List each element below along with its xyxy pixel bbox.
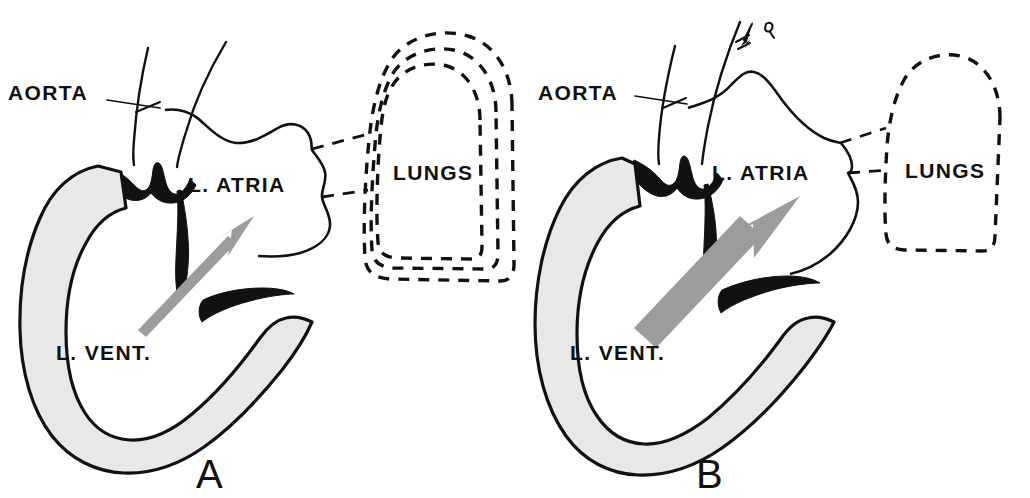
panel-b-lungs-group [885, 55, 1000, 251]
panel-a-label-aorta: AORTA [8, 81, 88, 104]
panel-b-label-ventricle: L. VENT. [570, 341, 665, 364]
lung-contour-middle [371, 49, 498, 269]
aortic-outflow-mark-dot [765, 23, 773, 32]
lung-contour-outer [364, 33, 514, 281]
panel-b-blood-flow-arrow [634, 196, 800, 348]
panel-a-label-atria: L. ATRIA [188, 173, 286, 196]
cardiac-flow-figure: AORTA L. ATRIA L. VENT. LUNGS A [0, 0, 1030, 498]
aorta-wall-left [658, 46, 675, 164]
panel-b: AORTA L. ATRIA L. VENT. LUNGS B [535, 21, 1000, 496]
panel-a: AORTA L. ATRIA L. VENT. LUNGS A [8, 33, 514, 496]
mitral-valve-posterior-leaflet [199, 288, 294, 322]
figure-canvas: AORTA L. ATRIA L. VENT. LUNGS A [0, 0, 1030, 498]
panel-a-blood-flow-arrow [138, 216, 254, 337]
pulmonary-connector-lower [322, 190, 368, 197]
aortic-outflow-mark-tail [770, 32, 774, 38]
panel-b-label-aorta: AORTA [538, 81, 618, 104]
pulmonary-connector-lower [848, 170, 888, 173]
lung-contour-outer [885, 55, 1000, 251]
panel-a-aorta-leader-line [107, 100, 160, 108]
panel-a-letter: A [196, 452, 223, 496]
panel-b-letter: B [696, 452, 723, 496]
pulmonary-connector-upper [312, 134, 368, 149]
panel-a-lungs-group [364, 33, 514, 281]
aortic-outflow-arrow [736, 21, 774, 49]
pulmonary-connector-upper [840, 128, 886, 143]
mitral-valve-posterior-leaflet [718, 276, 820, 313]
panel-b-label-atria: L. ATRIA [712, 161, 810, 184]
panel-b-label-lungs: LUNGS [905, 159, 986, 182]
panel-a-label-ventricle: L. VENT. [56, 341, 151, 364]
panel-a-label-lungs: LUNGS [393, 161, 474, 184]
